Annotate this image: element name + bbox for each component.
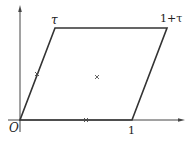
tau-label: τ xyxy=(51,13,58,27)
one-label: 1 xyxy=(128,124,135,137)
one-plus-tau-label: 1+τ xyxy=(160,12,182,25)
y-axis-arrow-icon xyxy=(18,5,22,12)
x-axis-arrow-icon xyxy=(178,118,185,122)
origin-label: O xyxy=(9,121,19,135)
parallelogram xyxy=(20,28,167,120)
parallelogram-diagram: O 1 τ 1+τ xyxy=(0,0,191,142)
center-marker xyxy=(95,75,99,79)
